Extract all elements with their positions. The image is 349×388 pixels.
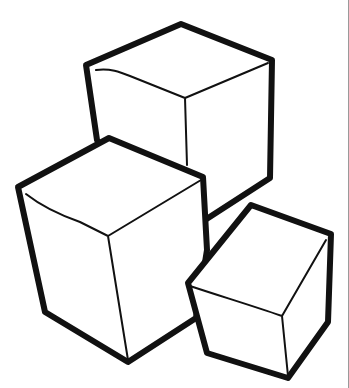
small-right-cube	[188, 205, 331, 378]
cubes-drawing	[0, 0, 349, 388]
left-front-cube	[18, 138, 207, 362]
cubes-illustration	[0, 0, 349, 388]
